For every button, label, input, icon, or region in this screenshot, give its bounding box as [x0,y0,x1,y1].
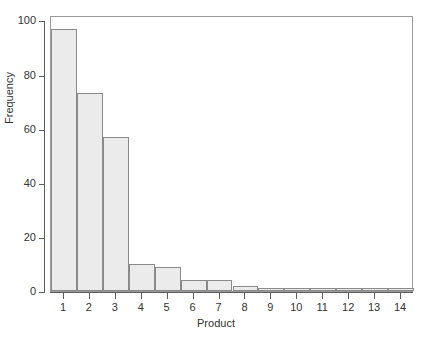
x-tick-label-9: 9 [267,302,273,313]
x-tick-mark-6 [193,293,194,299]
x-tick-mark-14 [400,293,401,299]
x-axis: Product 1234567891011121314 [0,292,432,344]
bar-2 [77,93,103,291]
x-tick-label-6: 6 [190,302,196,313]
x-tick-label-5: 5 [164,302,170,313]
x-axis-title: Product [0,318,432,329]
x-tick-mark-9 [270,293,271,299]
y-tick-label-100: 100 [18,15,36,26]
x-tick-label-14: 14 [394,302,406,313]
y-tick-label-40: 40 [24,178,36,189]
y-tick-label-60: 60 [24,124,36,135]
x-tick-mark-13 [374,293,375,299]
x-tick-mark-4 [141,293,142,299]
bar-9 [258,288,284,291]
bar-chart-figure: Frequency 020406080100 Product 123456789… [0,0,432,344]
x-tick-mark-1 [63,293,64,299]
x-tick-label-2: 2 [86,302,92,313]
y-tick-label-20: 20 [24,232,36,243]
x-tick-label-12: 12 [342,302,354,313]
x-tick-mark-3 [115,293,116,299]
bar-8 [233,286,259,291]
y-tick-mark-80 [39,76,45,77]
x-tick-label-3: 3 [112,302,118,313]
x-tick-mark-5 [167,293,168,299]
x-tick-label-10: 10 [290,302,302,313]
y-tick-mark-100 [39,21,45,22]
x-tick-mark-11 [322,293,323,299]
y-axis-title: Frequency [4,72,15,124]
x-axis-line [50,292,413,293]
bar-6 [181,280,207,291]
bar-5 [155,267,181,291]
x-tick-label-13: 13 [368,302,380,313]
bar-12 [336,288,362,291]
bar-4 [129,264,155,291]
bar-3 [103,137,129,291]
x-tick-mark-12 [348,293,349,299]
y-tick-mark-60 [39,130,45,131]
bar-1 [51,29,77,291]
x-tick-label-8: 8 [241,302,247,313]
bars-layer [51,17,412,291]
plot-panel [50,16,413,292]
bar-11 [310,288,336,291]
y-axis-line [44,22,45,293]
y-tick-mark-20 [39,238,45,239]
x-tick-label-1: 1 [60,302,66,313]
x-tick-label-4: 4 [138,302,144,313]
bar-10 [284,288,310,291]
x-tick-mark-10 [296,293,297,299]
bar-14 [388,288,414,291]
x-tick-label-11: 11 [317,302,328,313]
y-tick-mark-40 [39,184,45,185]
bar-13 [362,288,388,291]
x-tick-mark-2 [89,293,90,299]
bar-7 [207,280,233,291]
x-tick-mark-8 [244,293,245,299]
x-tick-mark-7 [219,293,220,299]
x-tick-label-7: 7 [215,302,221,313]
y-tick-label-80: 80 [24,70,36,81]
